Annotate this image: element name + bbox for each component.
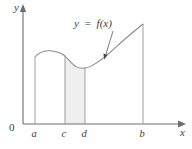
tick-label-a: a (32, 128, 37, 139)
annotation-leader-line (106, 31, 114, 56)
function-label-operator: = (85, 17, 91, 29)
tick-label-c: c (62, 128, 67, 139)
tick-label-d: d (82, 128, 88, 139)
function-curve (35, 24, 143, 68)
origin-label: 0 (9, 121, 15, 133)
function-label-rhs: f(x) (97, 17, 113, 30)
function-label-lhs: y (73, 17, 79, 29)
y-axis-arrowhead (20, 4, 26, 12)
function-graph-figure: y x 0 a c d b y = f(x) (0, 0, 192, 149)
y-axis-label: y (13, 1, 19, 13)
tick-label-b: b (140, 128, 145, 139)
x-axis-label: x (179, 126, 185, 138)
plot-canvas: y x 0 a c d b y = f(x) (0, 0, 192, 149)
function-label: y = f(x) (73, 17, 112, 30)
